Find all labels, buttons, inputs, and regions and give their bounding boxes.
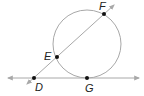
point-d [32,76,36,80]
point-label-g: G [85,83,94,94]
point-f [102,12,106,16]
point-label-f: F [99,1,106,12]
point-g [85,76,89,80]
circle [53,10,121,78]
point-e [55,55,59,59]
diagram-canvas: F E D G [0,0,144,96]
point-label-e: E [44,51,51,62]
point-label-d: D [35,82,43,93]
geometry-figure [0,0,144,96]
secant-line [27,5,114,84]
